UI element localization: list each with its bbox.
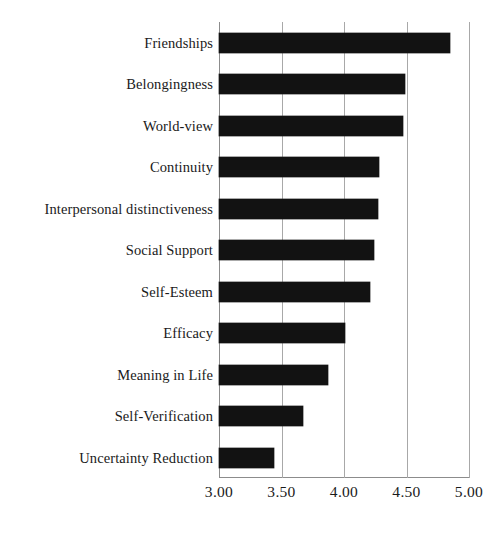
- category-label: Belongingness: [0, 77, 213, 92]
- category-label: Friendships: [0, 36, 213, 51]
- bar-chart-figure: FriendshipsBelongingnessWorld-viewContin…: [0, 0, 503, 534]
- value-axis-tick-labels: 3.003.504.004.505.00: [219, 484, 469, 510]
- x-tick-label: 4.50: [392, 484, 420, 500]
- x-tick-label: 5.00: [455, 484, 483, 500]
- category-label: World-view: [0, 119, 213, 134]
- bar: [219, 74, 405, 94]
- bar: [219, 199, 378, 219]
- category-label: Social Support: [0, 243, 213, 258]
- bar: [219, 33, 450, 53]
- x-tick-label: 4.00: [330, 484, 358, 500]
- gridline-4.50: [407, 22, 408, 478]
- category-label: Self-Esteem: [0, 285, 213, 300]
- bar: [219, 282, 370, 302]
- category-label: Self-Verification: [0, 409, 213, 424]
- gridline-5.00: [469, 22, 470, 478]
- bar: [219, 116, 403, 136]
- x-tick-label: 3.50: [267, 484, 295, 500]
- category-label: Uncertainty Reduction: [0, 451, 213, 466]
- bar: [219, 240, 374, 260]
- bar: [219, 406, 303, 426]
- bar: [219, 448, 274, 468]
- category-label: Interpersonal distinctiveness: [0, 202, 213, 217]
- bar: [219, 365, 328, 385]
- bar: [219, 323, 345, 343]
- x-tick-label: 3.00: [205, 484, 233, 500]
- category-label: Continuity: [0, 160, 213, 175]
- bar: [219, 157, 379, 177]
- category-axis-labels: FriendshipsBelongingnessWorld-viewContin…: [0, 22, 213, 478]
- category-label: Efficacy: [0, 326, 213, 341]
- plot-area: [219, 22, 469, 478]
- category-label: Meaning in Life: [0, 368, 213, 383]
